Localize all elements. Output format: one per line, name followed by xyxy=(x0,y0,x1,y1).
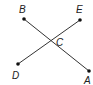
label-c: C xyxy=(56,37,64,48)
label-d: D xyxy=(12,70,19,81)
point-b xyxy=(22,17,26,21)
point-e xyxy=(78,18,82,22)
intersecting-lines-diagram: B E C D A xyxy=(0,0,93,85)
label-a: A xyxy=(83,75,91,85)
point-a xyxy=(87,69,91,73)
label-e: E xyxy=(76,4,83,15)
point-d xyxy=(16,62,20,66)
segment-de xyxy=(18,20,80,64)
label-b: B xyxy=(19,4,26,15)
